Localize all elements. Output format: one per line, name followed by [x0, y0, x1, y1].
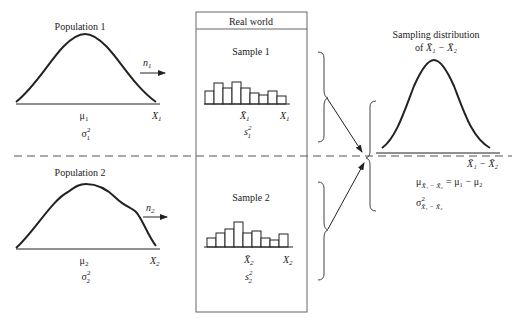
population-2-axis-label: X2	[149, 255, 160, 268]
histogram-bar	[250, 93, 259, 104]
population-1-variance: σ21	[82, 126, 91, 142]
sample-2-histogram	[207, 222, 288, 247]
sampling-distribution-subtitle: of X̄₁ − X̄₂	[415, 42, 457, 53]
population-2-curve	[16, 184, 156, 248]
histogram-bar	[252, 231, 261, 247]
brace-sample-2	[318, 182, 328, 280]
arrow-sample-2-to-distribution	[328, 163, 364, 229]
population-1-panel: Population 1 μ1 X1 σ21 n1	[16, 21, 165, 142]
histogram-bar	[216, 233, 225, 247]
histogram-bar	[241, 88, 250, 104]
sample-size-1-label: n1	[143, 57, 152, 70]
sample-1-axis-label: X1	[279, 110, 290, 123]
histogram-bar	[270, 240, 279, 247]
sample-1-histogram	[205, 82, 286, 104]
histogram-bar	[225, 229, 234, 247]
histogram-bar	[214, 83, 223, 104]
sample-2-title: Sample 2	[232, 192, 270, 203]
histogram-bar	[207, 238, 216, 247]
histogram-bar	[205, 91, 214, 104]
variance-formula: σ2X̄₁ − X̄₂	[416, 195, 443, 211]
sampling-distribution-title: Sampling distribution	[393, 29, 480, 40]
sample-1-variance: s21	[244, 124, 252, 140]
histogram-bar	[259, 95, 268, 104]
population-2-mean-label: μ2	[80, 255, 89, 268]
arrow-sample-1-to-distribution	[327, 98, 362, 152]
sampling-distribution-curve	[382, 60, 490, 148]
real-world-header: Real world	[229, 16, 273, 27]
histogram-bar	[243, 233, 252, 247]
population-2-variance: σ22	[82, 269, 91, 285]
population-1-title: Population 1	[55, 21, 106, 32]
histogram-bar	[277, 96, 286, 104]
sample-2-axis-label: X2	[282, 254, 293, 267]
sampling-distribution-panel: Sampling distribution of X̄₁ − X̄₂ X̄₁ −…	[376, 29, 500, 211]
mean-formula: μX̄₁ − X̄₂= μ₁ − μ₂	[416, 176, 483, 190]
histogram-bar	[234, 222, 243, 247]
population-1-mean-label: μ1	[80, 110, 89, 123]
histogram-bar	[279, 234, 288, 247]
real-world-box: Real world Sample 1 X̄1 X1 s21 Sample 2 …	[196, 12, 307, 312]
sample-2-mean-label: X̄2	[243, 254, 254, 267]
population-2-panel: Population 2 μ2 X2 σ22 n2	[16, 167, 167, 285]
diagram-canvas: Population 1 μ1 X1 σ21 n1 Population 2 μ…	[0, 0, 512, 326]
sample-size-2-label: n2	[146, 202, 155, 215]
population-2-title: Population 2	[55, 167, 106, 178]
sample-1-title: Sample 1	[232, 46, 270, 57]
histogram-bar	[232, 82, 241, 104]
brace-sample-1	[318, 52, 328, 142]
sample-1-mean-label: X̄1	[239, 110, 250, 123]
sample-2-variance: s22	[245, 269, 253, 285]
population-1-curve	[16, 34, 156, 102]
population-1-axis-label: X1	[151, 110, 162, 123]
histogram-bar	[261, 238, 270, 247]
histogram-bar	[223, 88, 232, 104]
sampling-distribution-axis-label: X̄₁ − X̄₂	[466, 158, 498, 169]
histogram-bar	[268, 91, 277, 104]
